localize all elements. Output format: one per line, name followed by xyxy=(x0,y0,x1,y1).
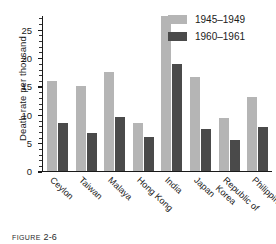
bar-group xyxy=(47,16,68,171)
x-tick-label: Japan xyxy=(192,175,217,199)
y-tick-minor xyxy=(39,166,42,167)
bar xyxy=(247,97,257,171)
y-tick-major: 0 xyxy=(38,171,43,172)
y-tick-label: 0 xyxy=(27,166,32,177)
y-tick-minor xyxy=(39,138,42,139)
y-tick-minor xyxy=(39,41,42,42)
y-tick-major: 5 xyxy=(38,143,43,144)
y-tick-minor xyxy=(39,149,42,150)
y-tick-minor xyxy=(39,64,42,65)
y-tick-minor xyxy=(39,18,42,19)
bar xyxy=(115,117,125,171)
y-tick-label: 10 xyxy=(21,109,32,120)
y-tick-minor xyxy=(39,98,42,99)
x-axis-labels: CeylonTaiwanMalayaHong KongIndiaJapanRep… xyxy=(43,174,273,240)
x-label-slot: Philippines xyxy=(244,174,273,240)
bar-group xyxy=(247,16,268,171)
caption-word: FIGURE xyxy=(12,234,41,241)
y-tick-label: 25 xyxy=(21,24,32,35)
x-label-slot: Ceylon xyxy=(43,174,72,240)
x-label-slot: Malaya xyxy=(101,174,130,240)
bar xyxy=(47,81,57,171)
y-tick-minor xyxy=(39,126,42,127)
figure-container: Death rate per thousand 0510152025 Ceylo… xyxy=(0,0,276,244)
bar xyxy=(87,133,97,171)
bar xyxy=(201,129,211,171)
bar xyxy=(190,77,200,171)
y-tick-minor xyxy=(39,121,42,122)
y-tick-minor xyxy=(39,92,42,93)
y-tick-label: 5 xyxy=(27,138,32,149)
x-label-slot: Japan xyxy=(187,174,216,240)
bar xyxy=(58,123,68,171)
y-tick-minor xyxy=(39,75,42,76)
bar xyxy=(230,140,240,171)
x-label-slot: Republic ofKorea xyxy=(216,174,245,240)
legend-label: 1945–1949 xyxy=(195,14,245,25)
x-axis-line xyxy=(42,171,272,172)
y-tick-minor xyxy=(39,155,42,156)
y-tick-minor xyxy=(39,109,42,110)
y-tick-major: 10 xyxy=(38,115,43,116)
bar xyxy=(219,118,229,171)
y-tick-minor xyxy=(39,81,42,82)
y-tick-major: 15 xyxy=(38,86,43,87)
legend-label: 1960–1961 xyxy=(195,31,245,42)
bar xyxy=(133,123,143,171)
bar-group xyxy=(133,16,154,171)
x-label-slot: Taiwan xyxy=(72,174,101,240)
bar xyxy=(258,127,268,171)
bar xyxy=(104,72,114,171)
y-tick-major: 20 xyxy=(38,58,43,59)
figure-caption: FIGURE 2-6 xyxy=(12,232,57,242)
legend-item: 1945–1949 xyxy=(168,14,245,25)
y-tick-label: 20 xyxy=(21,52,32,63)
y-tick-major: 25 xyxy=(38,30,43,31)
caption-number: 2-6 xyxy=(43,232,57,242)
y-tick-minor xyxy=(39,70,42,71)
x-label-slot: India xyxy=(158,174,187,240)
chart-legend: 1945–19491960–1961 xyxy=(168,14,245,42)
legend-swatch xyxy=(168,15,187,24)
bar-group xyxy=(76,16,97,171)
legend-swatch xyxy=(168,32,187,41)
x-tick-label: Philippines xyxy=(249,175,276,212)
bar-group xyxy=(104,16,125,171)
y-tick-minor xyxy=(39,104,42,105)
bar xyxy=(172,64,182,171)
y-tick-minor xyxy=(39,35,42,36)
y-tick-minor xyxy=(39,47,42,48)
x-label-slot: Hong Kong xyxy=(129,174,158,240)
bar xyxy=(76,86,86,171)
y-tick-minor xyxy=(39,160,42,161)
bar xyxy=(144,137,154,171)
y-tick-minor xyxy=(39,132,42,133)
y-tick-minor xyxy=(39,24,42,25)
x-tick-label: India xyxy=(163,175,184,196)
y-tick-minor xyxy=(39,52,42,53)
legend-item: 1960–1961 xyxy=(168,31,245,42)
y-tick-label: 15 xyxy=(21,81,32,92)
